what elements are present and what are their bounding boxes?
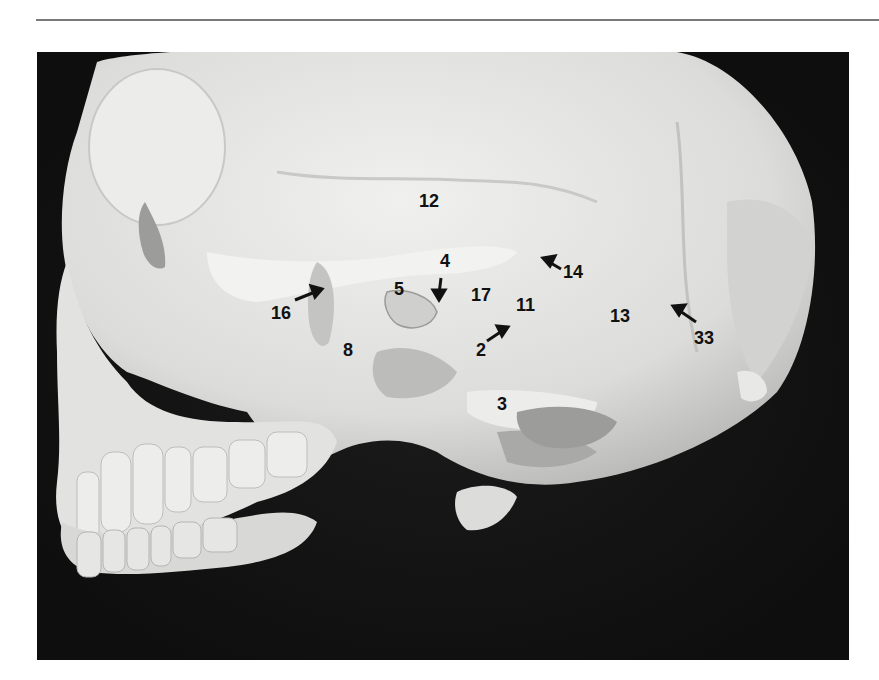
skull-photograph: 12 4 14 5 17 11 16 13 33 2 8 3 <box>37 52 849 660</box>
label-5: 5 <box>394 280 404 298</box>
label-17: 17 <box>471 286 491 304</box>
label-4: 4 <box>440 252 450 270</box>
top-rule <box>36 19 879 21</box>
label-12: 12 <box>419 192 439 210</box>
label-11: 11 <box>516 296 535 314</box>
label-33: 33 <box>694 329 714 347</box>
label-3: 3 <box>497 395 507 413</box>
label-2: 2 <box>476 341 486 359</box>
label-13: 13 <box>610 307 630 325</box>
skull-illustration <box>37 52 849 660</box>
label-8: 8 <box>343 341 353 359</box>
label-16: 16 <box>271 304 291 322</box>
label-14: 14 <box>563 263 583 281</box>
